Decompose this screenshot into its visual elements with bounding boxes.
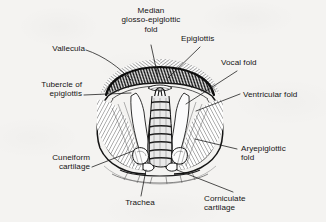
label-median-glosso-epiglottic-fold: Median glosso-epiglottic fold — [104, 6, 198, 34]
corniculate-cartilage-right — [166, 163, 177, 171]
label-corniculate-cartilage: Corniculate cartilage — [204, 194, 282, 213]
larynx-figure: Median glosso-epiglottic fold Epiglottis… — [0, 0, 326, 222]
label-vocal-fold: Vocal fold — [221, 58, 285, 67]
label-cuneiform-cartilage: Cuneiform cartilage — [20, 153, 90, 172]
label-trachea: Trachea — [116, 198, 164, 207]
label-aryepiglottic-fold: Aryepiglottic fold — [241, 144, 319, 163]
label-vallecula: Vallecula — [25, 44, 85, 53]
label-tubercle-of-epiglottis: Tubercle of epiglottis — [12, 80, 82, 99]
label-epiglottis: Epiglottis — [181, 34, 241, 43]
label-ventricular-fold: Ventricular fold — [243, 90, 323, 99]
corniculate-cartilage-left — [143, 163, 154, 171]
